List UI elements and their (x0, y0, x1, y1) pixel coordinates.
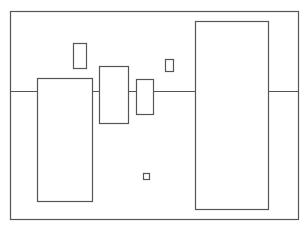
small-upper-box (74, 44, 87, 69)
tiny-upper-box (166, 60, 174, 72)
tiny-square (144, 174, 150, 180)
boxes-group (38, 22, 269, 210)
left-tall-box (38, 79, 93, 202)
mid-box (100, 67, 129, 124)
diagram-canvas (0, 0, 308, 228)
narrow-box (137, 80, 154, 115)
right-tall-box (196, 22, 269, 210)
